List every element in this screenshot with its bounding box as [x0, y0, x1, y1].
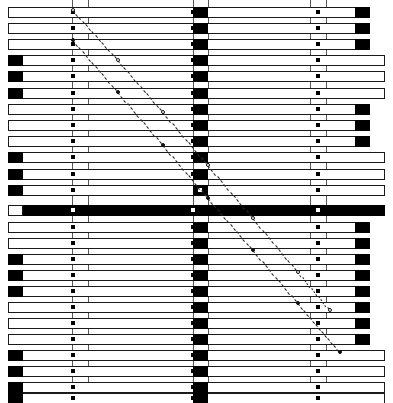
center-column-block [193, 270, 208, 281]
bar-row[interactable] [0, 136, 393, 147]
bar-row[interactable] [0, 318, 393, 329]
trend-line-segment [178, 131, 181, 134]
bar-row[interactable] [0, 366, 393, 377]
row-marker [316, 369, 320, 373]
trend-line-segment [220, 180, 223, 183]
center-column-block [193, 366, 208, 377]
trend-line-segment [239, 203, 242, 206]
trend-line-segment [278, 249, 281, 252]
bar-row[interactable] [0, 7, 393, 18]
bar-row[interactable] [0, 71, 393, 82]
center-column-block [193, 254, 208, 265]
center-column-block [193, 39, 208, 50]
bar-row[interactable] [0, 382, 393, 393]
bar-row[interactable] [0, 169, 393, 180]
row-marker [316, 337, 320, 341]
center-column-block [193, 7, 208, 18]
row-marker [191, 353, 195, 357]
row-marker [191, 91, 195, 95]
row-marker [191, 42, 195, 46]
row-marker [191, 289, 195, 293]
bar-row[interactable] [0, 39, 393, 50]
bar-row[interactable] [0, 88, 393, 99]
figure-container [0, 0, 393, 403]
row-marker [191, 58, 195, 62]
row-marker [71, 396, 75, 400]
trend-line-segment [137, 82, 140, 85]
row-marker [316, 188, 320, 192]
trend-point-marker [251, 248, 255, 252]
bar-right-cap [355, 318, 370, 329]
row-marker [191, 123, 195, 127]
trend-line-segment [124, 67, 127, 70]
row-marker [191, 241, 195, 245]
row-marker [191, 208, 195, 212]
trend-line-segment [165, 116, 168, 119]
bar-row[interactable] [0, 302, 393, 313]
bar-row[interactable] [0, 286, 393, 297]
plot-area [0, 0, 393, 403]
bar-right-cap [355, 270, 370, 281]
bar-left-cap [8, 270, 23, 281]
bar-row[interactable] [0, 270, 393, 281]
row-marker [71, 188, 75, 192]
trend-line-segment [210, 202, 213, 205]
row-marker [191, 337, 195, 341]
bar-left-cap [8, 393, 23, 403]
row-marker [191, 107, 195, 111]
row-marker [316, 91, 320, 95]
bar-right-cap [355, 23, 370, 34]
bar-row[interactable] [0, 23, 393, 34]
bar-left-cap [8, 382, 23, 393]
center-column-block [193, 88, 208, 99]
bar-right-cap [355, 286, 370, 297]
row-marker [71, 155, 75, 159]
row-marker [191, 257, 195, 261]
row-marker [71, 123, 75, 127]
center-column-block [193, 71, 208, 82]
row-marker [191, 369, 195, 373]
row-marker [191, 26, 195, 30]
row-marker [71, 369, 75, 373]
trend-line-segment [95, 66, 98, 69]
bar-left-cap [8, 350, 23, 361]
bar-row[interactable] [0, 222, 393, 233]
bar-row[interactable] [0, 238, 393, 249]
bar-row[interactable] [0, 55, 393, 66]
bar-right-cap [355, 302, 370, 313]
bar-row[interactable] [0, 104, 393, 115]
trend-line-segment [95, 35, 98, 38]
row-marker [316, 241, 320, 245]
row-marker [316, 396, 320, 400]
bar-right-cap [355, 334, 370, 345]
bar-right-cap [355, 39, 370, 50]
row-marker [316, 139, 320, 143]
bar-right-cap [355, 136, 370, 147]
bar-row[interactable] [0, 205, 393, 216]
row-marker [71, 58, 75, 62]
row-marker [71, 74, 75, 78]
row-marker [316, 305, 320, 309]
bar-highlighted[interactable] [8, 205, 385, 216]
trend-point-marker [251, 216, 255, 220]
bar-left-cap [8, 366, 23, 377]
bar-row[interactable] [0, 254, 393, 265]
bar-row[interactable] [0, 334, 393, 345]
row-marker [191, 396, 195, 400]
trend-point-marker [71, 38, 75, 42]
trend-point-marker [328, 308, 332, 312]
bar-right-cap [355, 222, 370, 233]
trend-point-marker [116, 90, 120, 94]
row-marker [71, 172, 75, 176]
bar-row[interactable] [0, 350, 393, 361]
trend-point-marker [296, 301, 300, 305]
trend-line-segment [137, 115, 140, 118]
center-column-block [193, 120, 208, 131]
bar-row[interactable] [0, 393, 393, 403]
row-marker [316, 225, 320, 229]
row-marker [71, 353, 75, 357]
row-marker [316, 123, 320, 127]
row-marker [316, 353, 320, 357]
trend-line-segment [320, 299, 322, 301]
bar-row[interactable] [0, 120, 393, 131]
